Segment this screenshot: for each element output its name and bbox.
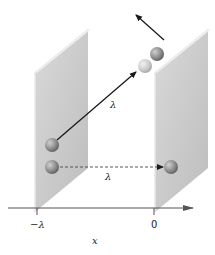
x-axis: −λ 0 x	[8, 208, 193, 246]
ball-pair-light	[138, 59, 152, 73]
horizontal-lambda-label: λ	[104, 171, 111, 182]
axis-label-x: x	[92, 235, 98, 246]
diagonal-lambda-label: λ	[109, 99, 116, 110]
motion-arrow	[136, 15, 164, 40]
tick-label-zero: 0	[151, 219, 157, 230]
plates-diagram: λ λ −λ 0 x	[0, 0, 215, 255]
ball-upper-left	[45, 138, 59, 152]
ball-lower-left	[45, 160, 59, 174]
ball-right-plate	[164, 160, 178, 174]
left-plate	[35, 29, 90, 212]
tick-label-minus-lambda: −λ	[30, 219, 45, 230]
ball-pair-dark	[150, 47, 164, 61]
